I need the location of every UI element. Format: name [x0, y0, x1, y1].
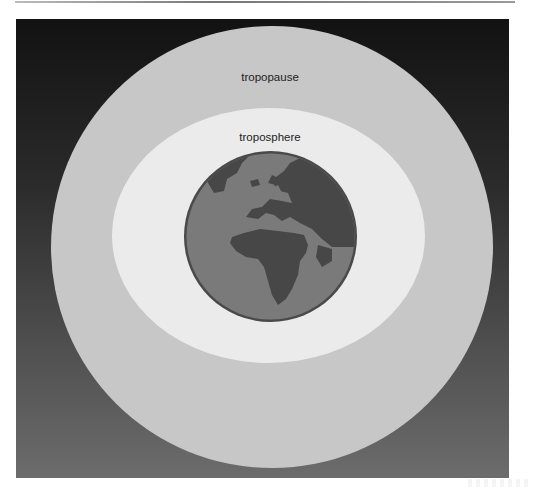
diagram-panel: tropopause troposphere [16, 19, 509, 478]
corner-watermark [468, 479, 528, 487]
tropopause-label: tropopause [241, 71, 299, 83]
top-divider-line [15, 1, 515, 3]
troposphere-label: troposphere [239, 131, 300, 143]
globe-icon [182, 149, 359, 324]
